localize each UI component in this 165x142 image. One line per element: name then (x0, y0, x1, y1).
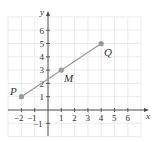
y-tick-label: 3 (40, 65, 45, 75)
x-axis-label: x (145, 111, 150, 121)
y-axis-arrow-icon (46, 11, 50, 16)
y-tick-label: 6 (40, 26, 45, 36)
x-tick-label: 5 (112, 113, 117, 123)
point-q-label: Q (104, 46, 112, 58)
y-tick-label: 5 (40, 39, 45, 49)
y-tick-label: −1 (33, 119, 43, 129)
point-m-label: M (63, 72, 74, 84)
point-p (19, 94, 24, 99)
y-tick-label: 1 (40, 92, 45, 102)
y-tick-label: 4 (40, 52, 45, 62)
x-tick-label: 3 (86, 113, 91, 123)
x-tick-label: −2 (14, 113, 24, 123)
coordinate-plane: x y −2 −1 1 2 3 4 5 6 −1 1 2 3 4 5 6 P M… (0, 0, 165, 142)
x-tick-label: 2 (72, 113, 77, 123)
x-tick-label: 6 (125, 113, 130, 123)
x-tick-label: 1 (59, 113, 64, 123)
y-axis-label: y (39, 7, 44, 17)
x-tick-label: 4 (99, 113, 104, 123)
point-p-label: P (9, 85, 17, 97)
